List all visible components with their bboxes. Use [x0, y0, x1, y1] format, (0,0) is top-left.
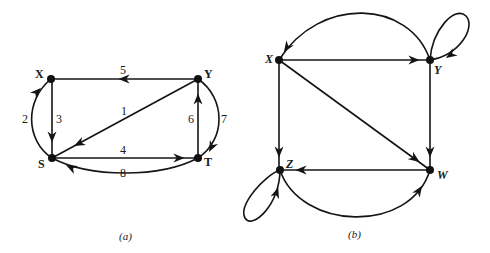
edge-a-2: 2 [22, 79, 52, 158]
svg-text:W: W [437, 168, 449, 182]
edge-b-y-x-arc [279, 13, 430, 60]
svg-text:X: X [264, 52, 274, 66]
edge-label: 1 [121, 104, 127, 118]
edge-label: 5 [120, 63, 126, 77]
svg-text:Z: Z [285, 157, 294, 171]
edge-label: 4 [120, 143, 126, 157]
figure: 5 3 2 1 4 8 [0, 0, 490, 253]
edge-a-6: 6 [188, 79, 198, 158]
diagram-a: 5 3 2 1 4 8 [22, 63, 227, 243]
svg-text:Y: Y [204, 67, 213, 81]
edge-a-5: 5 [51, 63, 198, 79]
svg-text:Y: Y [434, 63, 443, 77]
svg-text:S: S [38, 157, 45, 171]
svg-text:T: T [204, 155, 212, 169]
node-a-x: X [35, 67, 55, 83]
edge-label: 3 [56, 112, 62, 126]
svg-text:X: X [35, 67, 44, 81]
edge-a-3: 3 [52, 79, 62, 158]
node-a-y: Y [194, 67, 213, 83]
node-a-t: T [194, 154, 212, 169]
edge-label: 8 [120, 166, 126, 180]
diagram-b: X Y Z W (b) [244, 13, 469, 241]
edge-b-x-w [279, 60, 430, 170]
edge-b-z-loop [244, 170, 280, 221]
caption-b: (b) [348, 228, 361, 241]
edge-label: 2 [22, 112, 28, 126]
edge-label: 7 [221, 112, 227, 126]
edge-b-z-w-arc [280, 170, 430, 217]
node-a-s: S [38, 154, 56, 171]
edge-a-7: 7 [198, 79, 227, 158]
edge-a-8: 8 [52, 158, 198, 180]
edge-b-y-loop [430, 13, 469, 60]
caption-a: (a) [119, 230, 132, 243]
node-b-x: X [264, 52, 283, 66]
edge-label: 6 [188, 112, 194, 126]
